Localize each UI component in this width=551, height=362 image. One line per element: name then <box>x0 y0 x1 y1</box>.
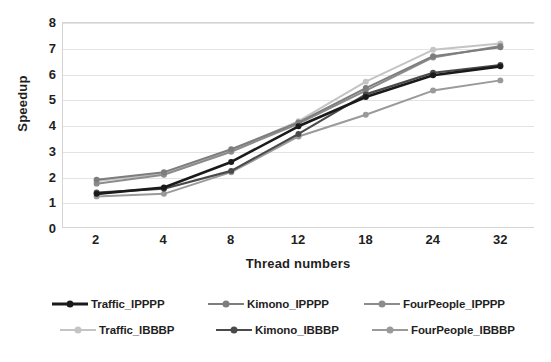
x-axis-tick-label: 2 <box>76 232 116 248</box>
y-axis-tick-label: 2 <box>26 170 56 183</box>
data-point <box>161 191 167 197</box>
legend-item-kimono-ipppp[interactable]: Kimono_IPPPP <box>208 292 364 316</box>
x-axis-tick-label: 4 <box>143 232 183 248</box>
series-traffic-ibbbp <box>94 40 504 184</box>
series-canvas <box>63 23 534 227</box>
y-axis-tick-label: 7 <box>26 41 56 54</box>
speedup-line-chart: Speedup 876543210 24812182432 Thread num… <box>0 0 551 362</box>
plot-area <box>62 22 534 228</box>
data-point <box>228 168 234 174</box>
data-point <box>430 47 436 53</box>
legend-item-fourpeople-ipppp[interactable]: FourPeople_IPPPP <box>364 292 520 316</box>
legend-swatch-icon <box>372 324 408 336</box>
data-point <box>363 112 369 118</box>
legend-label: Kimono_IPPPP <box>247 298 329 310</box>
data-point <box>430 53 436 59</box>
data-point <box>363 85 369 91</box>
legend-item-traffic-ipppp[interactable]: Traffic_IPPPP <box>52 292 208 316</box>
data-point <box>296 131 302 137</box>
legend-item-kimono-ibbbp[interactable]: Kimono_IBBBP <box>208 318 364 342</box>
y-axis-tick-label: 4 <box>26 119 56 132</box>
data-point <box>363 94 369 100</box>
series-fourpeople-ipppp <box>94 43 504 187</box>
y-axis-tick-label: 5 <box>26 93 56 106</box>
x-axis-tick-label: 12 <box>278 232 318 248</box>
legend-swatch-icon <box>216 324 252 336</box>
legend-item-traffic-ibbbp[interactable]: Traffic_IBBBP <box>52 318 208 342</box>
legend-label: FourPeople_IPPPP <box>403 298 505 310</box>
legend-swatch-icon <box>52 298 88 310</box>
data-point <box>363 79 369 85</box>
legend-label: Kimono_IBBBP <box>255 324 339 336</box>
data-point <box>228 159 234 165</box>
series-line <box>97 43 501 181</box>
legend-swatch-icon <box>208 298 244 310</box>
series-kimono-ipppp <box>94 44 504 183</box>
legend-label: Traffic_IPPPP <box>91 298 164 310</box>
legend-row: Traffic_IPPPPKimono_IPPPPFourPeople_IPPP… <box>52 292 522 316</box>
data-point <box>94 191 100 197</box>
data-point <box>430 72 436 78</box>
data-point <box>94 177 100 183</box>
x-axis-title: Thread numbers <box>62 256 534 271</box>
x-axis-tick-label: 32 <box>480 232 520 248</box>
legend-item-fourpeople-ibbbp[interactable]: FourPeople_IBBBP <box>364 318 520 342</box>
series-line <box>97 47 501 180</box>
data-point <box>161 185 167 191</box>
y-axis-tick-labels: 876543210 <box>26 22 56 228</box>
series-line <box>97 46 501 184</box>
y-axis-tick-label: 3 <box>26 144 56 157</box>
y-axis-tick-label: 1 <box>26 196 56 209</box>
series-fourpeople-ibbbp <box>94 77 504 199</box>
y-axis-tick-label: 8 <box>26 16 56 29</box>
data-point <box>228 146 234 152</box>
y-axis-tick-label: 6 <box>26 67 56 80</box>
data-point <box>430 88 436 94</box>
legend-label: Traffic_IBBBP <box>99 324 174 336</box>
legend-swatch-icon <box>60 324 96 336</box>
data-point <box>497 63 503 69</box>
chart-legend: Traffic_IPPPPKimono_IPPPPFourPeople_IPPP… <box>52 292 522 346</box>
data-point <box>161 169 167 175</box>
legend-row: Traffic_IBBBPKimono_IBBBPFourPeople_IBBB… <box>52 318 522 342</box>
x-axis-tick-label: 24 <box>413 232 453 248</box>
x-axis-tick-label: 8 <box>211 232 251 248</box>
legend-swatch-icon <box>364 298 400 310</box>
x-axis-tick-labels: 24812182432 <box>62 232 534 252</box>
data-point <box>296 123 302 129</box>
y-axis-tick-label: 0 <box>26 222 56 235</box>
data-point <box>497 44 503 50</box>
legend-label: FourPeople_IBBBP <box>411 324 515 336</box>
data-point <box>497 77 503 83</box>
x-axis-tick-label: 18 <box>345 232 385 248</box>
